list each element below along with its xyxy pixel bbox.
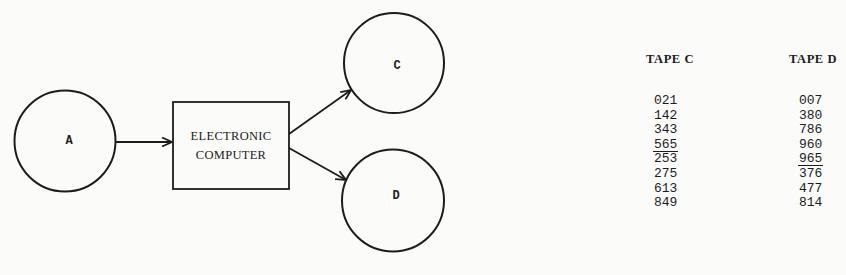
tape-c-title: TAPE C [646,52,706,66]
tape-d-value: 007 [789,94,846,109]
computer-label-line-2: COMPUTER [196,146,266,165]
electronic-computer-label: ELECTRONIC COMPUTER [173,102,289,190]
tape-c-column: TAPE C 021 142 343 565 253 275 613 849 [646,52,706,211]
arrow-computer-to-d [289,148,346,180]
tape-d-value-underlined: 965 [789,152,846,167]
tape-c-value: 849 [646,196,706,211]
node-c-label: C [393,59,400,73]
tape-c-value: 253 [646,152,706,167]
tape-d-value: 376 [789,167,846,182]
tape-c-value-underlined: 565 [646,138,706,153]
flow-diagram [0,0,846,275]
tape-d-values: 007 380 786 960 965 376 477 814 [789,94,846,211]
tape-c-value: 343 [646,123,706,138]
tape-c-value: 021 [646,94,706,109]
tape-c-value: 613 [646,182,706,197]
tape-d-value: 380 [789,109,846,124]
tape-c-value: 275 [646,167,706,182]
tape-d-column: TAPE D 007 380 786 960 965 376 477 814 [789,52,846,211]
tape-d-value: 786 [789,123,846,138]
tape-d-value: 960 [789,138,846,153]
tape-d-title: TAPE D [789,52,846,66]
computer-label-line-1: ELECTRONIC [191,127,272,146]
tape-d-value: 477 [789,182,846,197]
node-a-label: A [65,134,72,148]
tape-d-value: 814 [789,196,846,211]
tape-c-value: 142 [646,109,706,124]
arrow-computer-to-c [289,90,351,134]
tape-c-values: 021 142 343 565 253 275 613 849 [646,94,706,211]
node-d-label: D [392,189,399,203]
